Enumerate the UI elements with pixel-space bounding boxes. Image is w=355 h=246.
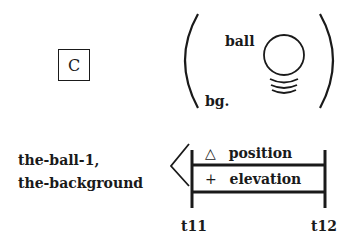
right-parenthesis (320, 14, 333, 108)
symbol-box-label: C (68, 56, 80, 75)
bounce-line-2 (271, 85, 297, 88)
plus-icon: + (205, 171, 217, 187)
timeline-end-label: t12 (311, 219, 337, 233)
ball-label: ball (225, 34, 255, 48)
bounce-line-3 (272, 90, 296, 93)
timeline-row-label: position (229, 145, 293, 161)
timeline-row-label: elevation (230, 171, 302, 187)
timeline-row-position: △ position (205, 146, 292, 160)
triangle-icon: △ (205, 145, 216, 161)
objects-list-line-2: the-background (18, 176, 143, 190)
diagram-canvas (0, 0, 355, 246)
objects-list-line-1: the-ball-1, (18, 153, 99, 167)
background-label: bg. (205, 94, 229, 108)
timeline-row-elevation: + elevation (205, 172, 301, 186)
left-parenthesis (185, 14, 198, 108)
bounce-line-1 (270, 79, 298, 83)
angle-bracket (171, 144, 189, 186)
symbol-box: C (58, 49, 90, 81)
timeline-start-label: t11 (181, 219, 207, 233)
ball-circle-icon (264, 35, 304, 75)
